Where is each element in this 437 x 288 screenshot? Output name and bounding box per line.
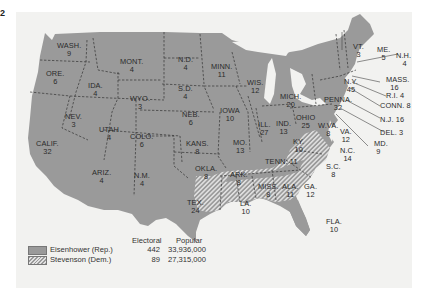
- state-label-tenn: TENN. 11: [265, 158, 298, 166]
- state-label-tex: TEX.24: [187, 199, 204, 215]
- callout-del: DEL. 3: [380, 129, 403, 137]
- state-label-ark: ARK.8: [230, 171, 248, 187]
- state-label-va: VA.12: [340, 128, 352, 144]
- republican-swatch: [28, 246, 47, 255]
- state-label-wva: W.VA.8: [318, 122, 338, 138]
- state-label-nev: NEV.3: [65, 113, 82, 129]
- state-label-wash: WASH.9: [57, 42, 81, 58]
- callout-md: MD. 9: [374, 140, 388, 156]
- florida-region: [262, 198, 310, 236]
- state-label-ind: IND.13: [276, 120, 291, 136]
- state-label-iowa: IOWA10: [220, 107, 240, 123]
- state-label-ky: KY.10: [293, 138, 304, 154]
- state-label-wis: WIS.12: [247, 79, 263, 95]
- state-label-ida: IDA.4: [88, 82, 103, 98]
- state-label-vt: VT.3: [353, 43, 364, 59]
- callout-ri: R.I. 4: [386, 92, 404, 100]
- state-label-ga: GA.12: [304, 183, 317, 199]
- callout-nj: N.J. 16: [380, 116, 404, 124]
- state-label-utah: UTAH4: [99, 126, 119, 142]
- state-label-mich: MICH.20: [280, 93, 301, 109]
- state-label-sd: S.D.4: [178, 85, 193, 101]
- state-label-calif: CALIF.32: [36, 140, 59, 156]
- state-label-me: ME.5: [377, 46, 390, 62]
- state-label-ore: ORE.6: [46, 70, 64, 86]
- state-label-miss: MISS.8: [258, 183, 279, 199]
- state-label-nm: N.M.4: [134, 172, 150, 188]
- legend-header-popular: Popular: [176, 236, 202, 245]
- state-label-minn: MINN.11: [211, 63, 232, 79]
- state-label-neb: NEB.6: [182, 111, 200, 127]
- state-label-mo: MO.13: [233, 139, 247, 155]
- callout-conn: CONN. 8: [380, 102, 411, 110]
- state-label-sc: S.C.8: [326, 163, 341, 179]
- state-label-mont: MONT.4: [120, 58, 144, 74]
- state-label-ohio: OHIO25: [296, 114, 315, 130]
- state-label-ny: N.Y.45: [344, 78, 358, 94]
- state-label-nd: N.D.4: [178, 56, 193, 72]
- state-label-kans: KANS.8: [186, 140, 209, 156]
- callout-nh: N.H. 4: [396, 52, 411, 68]
- state-label-fla: FLA.10: [326, 218, 342, 234]
- callout-mass: MASS. 16: [386, 76, 410, 92]
- state-label-ala: ALA.11: [282, 183, 298, 199]
- democratic-hatched-swatch: [28, 256, 47, 265]
- state-label-ill: ILL.27: [258, 121, 271, 137]
- state-label-nc: N.C.14: [340, 147, 355, 163]
- legend-header-electoral: Electoral: [132, 236, 162, 245]
- state-label-penna: PENNA.32: [324, 96, 352, 112]
- state-label-wyo: WYO.3: [130, 95, 150, 111]
- state-label-okla: OKLA.8: [195, 165, 217, 181]
- state-label-colo: COLO.6: [130, 133, 154, 149]
- state-label-la: LA.10: [240, 200, 251, 216]
- state-label-ariz: ARIZ.4: [92, 169, 111, 185]
